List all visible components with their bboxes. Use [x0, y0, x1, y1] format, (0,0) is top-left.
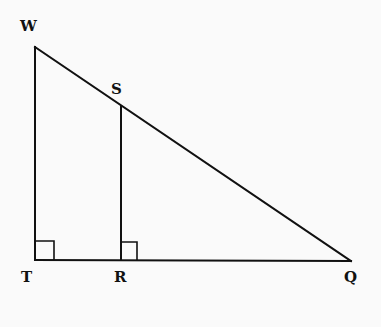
segment-WQ [35, 47, 351, 261]
segment-TQ [35, 260, 351, 261]
right-angle-marker-R [121, 242, 137, 260]
label-W: W [19, 17, 38, 35]
label-Q: Q [344, 268, 357, 286]
geometry-diagram: W S T R Q [0, 0, 381, 327]
label-R: R [114, 268, 127, 286]
label-T: T [21, 268, 33, 286]
label-S: S [111, 80, 122, 98]
right-angle-marker-T [35, 241, 54, 260]
